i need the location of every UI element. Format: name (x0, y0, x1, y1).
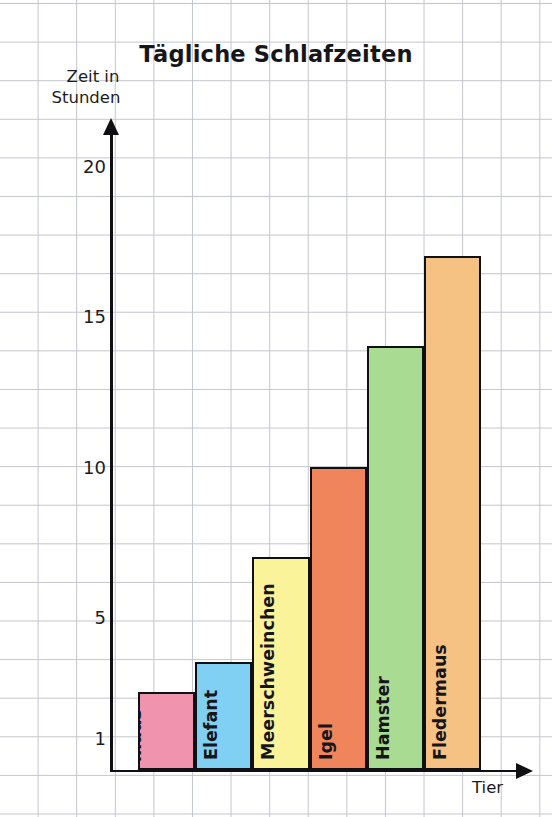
x-axis-arrow-icon (516, 763, 533, 779)
bar-igel[interactable]: Igel (310, 467, 367, 770)
y-axis-line (110, 132, 113, 772)
bar-label: Spitz- maus (138, 705, 145, 762)
chart-canvas: Tägliche Schlafzeiten Zeit in Stunden 20… (0, 0, 552, 817)
y-axis-arrow-icon (103, 118, 119, 135)
bar-meerschweinchen[interactable]: Meerschweinchen (252, 557, 309, 770)
bar-spitzmaus[interactable]: Spitz- maus (138, 692, 195, 769)
x-axis-caption: Tier (472, 778, 503, 797)
bar-elefant[interactable]: Elefant (195, 662, 252, 769)
bar-label: Hamster (373, 676, 393, 760)
x-axis-line (110, 770, 522, 773)
bar-series: Spitz- mausElefantMeerschweinchenIgelHam… (0, 0, 552, 817)
bar-fledermaus[interactable]: Fledermaus (424, 256, 481, 770)
bar-label: Elefant (201, 690, 221, 760)
bar-label: Fledermaus (430, 644, 450, 760)
bar-hamster[interactable]: Hamster (367, 346, 424, 769)
bar-label: Igel (316, 723, 336, 760)
bar-label: Meerschweinchen (258, 583, 278, 760)
